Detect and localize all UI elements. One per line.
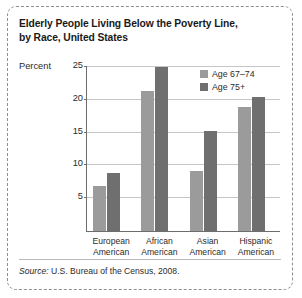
bar: [252, 97, 265, 231]
chart-title-line-2: by Race, United States: [19, 32, 128, 43]
source-label: Source:: [19, 266, 49, 276]
x-axis-category-line-2: American: [141, 247, 177, 258]
bar-group: EuropeanAmerican: [87, 67, 135, 231]
bar: [107, 173, 120, 231]
y-tick-label: 25: [73, 61, 83, 70]
x-axis-category-line-1: Asian: [189, 236, 225, 247]
x-axis-category-line-1: European: [92, 236, 129, 247]
source-text: U.S. Bureau of the Census, 2008.: [51, 266, 180, 276]
bar: [155, 67, 168, 231]
figure-panel: Elderly People Living Below the Poverty …: [7, 6, 293, 290]
source-divider: [19, 259, 281, 260]
bar: [238, 107, 251, 231]
x-axis-category-line-2: American: [92, 247, 129, 258]
bar: [93, 186, 106, 231]
y-tick-label: 5: [78, 193, 83, 202]
y-tick-label: 10: [73, 160, 83, 169]
legend-item: Age 75+: [200, 81, 255, 93]
legend-label: Age 75+: [212, 83, 245, 92]
bar: [190, 171, 203, 231]
x-axis-category-line-1: African: [141, 236, 177, 247]
x-axis-category-label: EuropeanAmerican: [92, 236, 129, 258]
bar: [204, 131, 217, 231]
x-axis-category-label: AfricanAmerican: [141, 236, 177, 258]
x-axis-category-line-2: American: [238, 247, 274, 258]
x-axis-category-line-1: Hispanic: [238, 236, 274, 247]
x-axis-category-label: HispanicAmerican: [238, 236, 274, 258]
y-axis-label: Percent: [19, 61, 51, 71]
chart-legend: Age 67–74Age 75+: [200, 68, 255, 94]
source-note: Source: U.S. Bureau of the Census, 2008.: [19, 266, 180, 276]
legend-label: Age 67–74: [212, 70, 255, 79]
chart-title-line-1: Elderly People Living Below the Poverty …: [19, 18, 238, 29]
y-tick-label: 20: [73, 94, 83, 103]
y-tick-label: 15: [73, 127, 83, 136]
bar-group: AfricanAmerican: [135, 67, 183, 231]
legend-swatch-icon: [200, 70, 208, 78]
x-axis-category-label: AsianAmerican: [189, 236, 225, 258]
chart-title: Elderly People Living Below the Poverty …: [19, 17, 269, 44]
x-axis-category-line-2: American: [189, 247, 225, 258]
bar: [141, 91, 154, 231]
legend-swatch-icon: [200, 83, 208, 91]
legend-item: Age 67–74: [200, 68, 255, 80]
